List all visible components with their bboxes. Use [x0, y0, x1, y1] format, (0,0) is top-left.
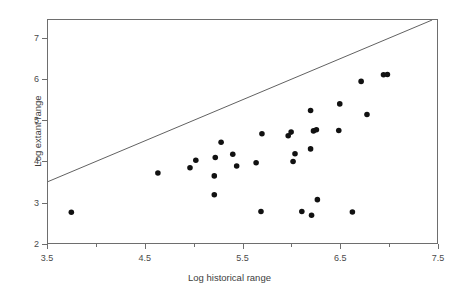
data-point	[258, 209, 264, 215]
data-point	[350, 209, 356, 215]
x-tick-major	[47, 244, 48, 249]
data-point	[315, 197, 321, 203]
data-point	[358, 79, 364, 85]
y-tick-label: 3	[25, 198, 39, 208]
data-point	[314, 127, 320, 133]
data-point	[155, 170, 161, 176]
y-tick-major	[42, 79, 47, 80]
plot-area	[47, 19, 438, 244]
data-point	[69, 210, 75, 216]
x-tick-label: 7.5	[432, 253, 445, 263]
data-point	[234, 163, 240, 169]
data-point	[259, 131, 265, 137]
data-point	[218, 140, 224, 146]
x-tick-label: 5.5	[236, 253, 249, 263]
plot-canvas	[48, 20, 437, 243]
x-tick-major	[438, 244, 439, 249]
data-point	[292, 151, 298, 157]
y-tick-major	[42, 38, 47, 39]
x-tick-major	[243, 244, 244, 249]
x-tick-label: 3.5	[41, 253, 54, 263]
y-tick-major	[42, 203, 47, 204]
data-point	[187, 165, 193, 171]
data-point	[309, 212, 315, 218]
x-tick-major	[340, 244, 341, 249]
data-point	[299, 209, 305, 215]
x-tick-minor	[389, 244, 390, 247]
reference-line	[48, 20, 432, 182]
y-tick-label: 7	[25, 33, 39, 43]
data-point	[385, 72, 391, 78]
y-tick-label: 6	[25, 74, 39, 84]
data-point	[212, 192, 218, 198]
data-layer	[48, 20, 437, 243]
data-point	[308, 108, 314, 114]
data-point	[336, 128, 342, 134]
y-tick-label: 2	[25, 239, 39, 249]
x-tick-label: 4.5	[138, 253, 151, 263]
y-axis-title: Log extant range	[32, 95, 43, 166]
x-tick-minor	[291, 244, 292, 247]
x-tick-major	[145, 244, 146, 249]
data-point	[288, 129, 294, 135]
x-tick-minor	[194, 244, 195, 247]
data-point	[364, 112, 370, 118]
data-point	[337, 101, 343, 107]
data-point	[230, 151, 236, 157]
scatter-plot-figure: 3.54.55.56.57.5 234567 Log historical ra…	[0, 0, 459, 296]
data-point	[290, 159, 296, 165]
x-tick-label: 6.5	[334, 253, 347, 263]
data-point	[253, 160, 259, 166]
data-point	[212, 173, 218, 179]
y-tick-major	[42, 244, 47, 245]
data-point	[193, 158, 199, 164]
data-point	[308, 146, 314, 152]
x-tick-minor	[96, 244, 97, 247]
x-axis-title: Log historical range	[0, 272, 459, 283]
data-point	[212, 155, 218, 161]
